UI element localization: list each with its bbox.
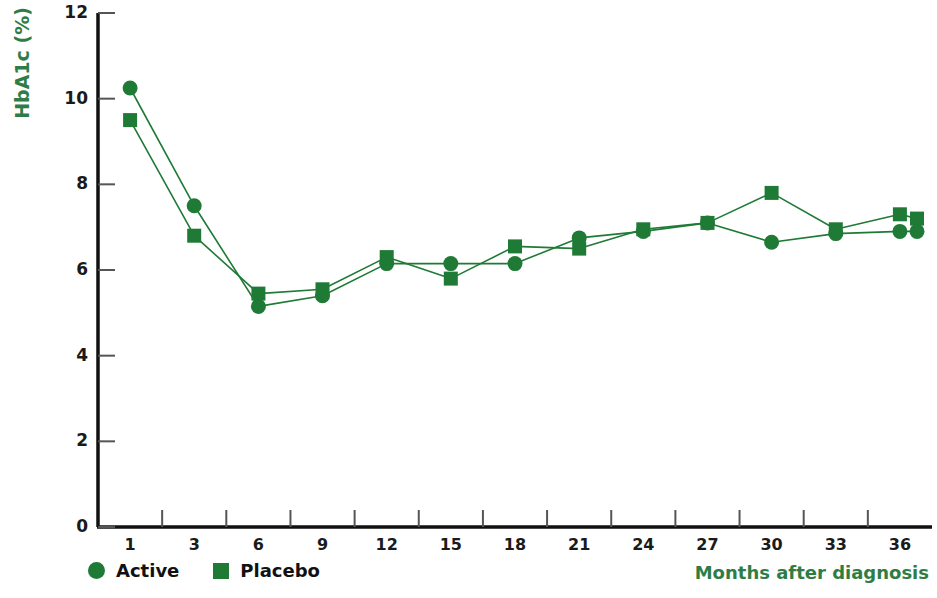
legend-item-active[interactable]: Active [88, 560, 179, 581]
data-point-active [892, 224, 907, 239]
data-point-placebo [893, 207, 907, 221]
data-point-placebo [444, 272, 458, 286]
plot-area [0, 0, 937, 598]
series-group [123, 81, 925, 314]
legend-label: Active [116, 560, 179, 581]
data-point-active [187, 198, 202, 213]
legend-circle-icon [88, 562, 105, 579]
series-line-active [130, 88, 917, 306]
data-point-active [123, 81, 138, 96]
legend-square-icon [213, 563, 229, 579]
data-point-placebo [251, 287, 265, 301]
x-axis-title: Months after diagnosis [695, 562, 929, 583]
data-point-active [764, 235, 779, 250]
data-point-placebo [508, 239, 522, 253]
legend-item-placebo[interactable]: Placebo [213, 560, 320, 581]
data-point-placebo [572, 242, 586, 256]
data-point-placebo [123, 113, 137, 127]
data-point-placebo [380, 250, 394, 264]
data-point-placebo [636, 222, 650, 236]
data-point-placebo [187, 229, 201, 243]
data-point-placebo [829, 222, 843, 236]
data-point-placebo [910, 212, 924, 226]
chart-legend: ActivePlacebo [88, 560, 320, 581]
chart-container: HbA1c (%) 121086420 13691215182124273033… [0, 0, 937, 598]
data-point-placebo [765, 186, 779, 200]
data-point-active [251, 299, 266, 314]
legend-label: Placebo [240, 560, 320, 581]
data-point-placebo [316, 282, 330, 296]
data-point-active [443, 256, 458, 271]
data-point-active [910, 224, 925, 239]
series-line-placebo [130, 120, 917, 294]
data-point-placebo [701, 216, 715, 230]
data-point-active [508, 256, 523, 271]
